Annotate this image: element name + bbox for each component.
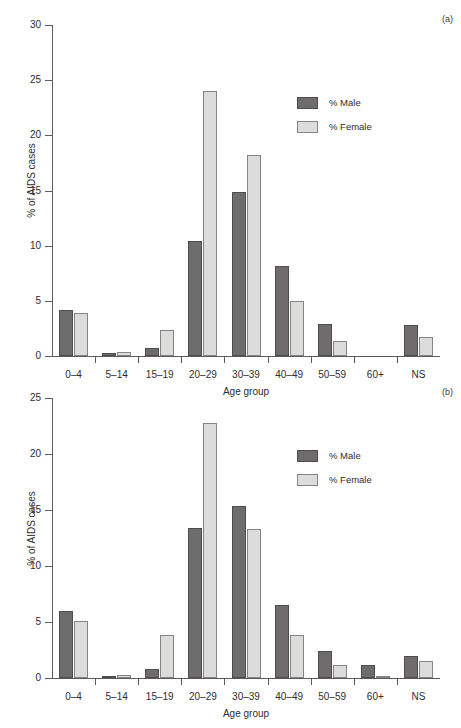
x-tick <box>95 679 96 685</box>
y-tick-20: 20 <box>45 135 52 136</box>
x-axis-label-7: 60+ <box>367 691 384 702</box>
bar-female-5 <box>290 301 304 356</box>
x-axis-label-5: 40–49 <box>275 369 303 380</box>
legend-item-male: % Male <box>297 449 372 462</box>
x-axis-a <box>52 356 440 357</box>
x-axis-label-5: 40–49 <box>275 691 303 702</box>
y-tick-15: 15 <box>45 191 52 192</box>
x-axis-label-6: 50–59 <box>318 369 346 380</box>
y-tick-label: 25 <box>30 391 41 404</box>
legend-label-female: % Female <box>329 121 372 133</box>
x-axis-b <box>52 678 440 679</box>
bar-male-0 <box>59 310 73 356</box>
x-axis-label-3: 20–29 <box>189 691 217 702</box>
bar-male-7 <box>361 665 375 678</box>
figure-a: (a) % of AIDS cases Age group 0510152025… <box>0 14 461 389</box>
x-tick <box>354 357 355 363</box>
bar-male-4 <box>232 192 246 356</box>
x-axis-label-0: 0–4 <box>65 691 82 702</box>
panel-label-a: (a) <box>442 14 453 24</box>
legend-label-female: % Female <box>329 474 372 486</box>
x-axis-label-2: 15–19 <box>146 691 174 702</box>
y-tick-label: 10 <box>30 559 41 572</box>
legend-label-male: % Male <box>329 97 361 109</box>
y-tick-25: 25 <box>45 80 52 81</box>
y-axis-b <box>52 398 53 679</box>
y-tick-5: 5 <box>45 301 52 302</box>
y-tick-30: 30 <box>45 25 52 26</box>
y-tick-label: 15 <box>30 184 41 197</box>
bar-female-6 <box>333 341 347 356</box>
x-axis-label-1: 5–14 <box>106 369 128 380</box>
x-axis-label-0: 0–4 <box>65 369 82 380</box>
legend-swatch-female-icon <box>297 121 318 133</box>
bar-female-6 <box>333 665 347 678</box>
bar-male-3 <box>188 241 202 356</box>
y-tick-label: 25 <box>30 73 41 86</box>
legend-swatch-male-icon <box>297 450 318 462</box>
y-tick-label: 30 <box>30 18 41 31</box>
bar-male-2 <box>145 669 159 678</box>
bar-female-4 <box>247 529 261 678</box>
x-tick <box>138 357 139 363</box>
x-axis-label-4: 30–39 <box>232 691 260 702</box>
legend-item-female: % Female <box>297 473 372 486</box>
x-axis-label-3: 20–29 <box>189 369 217 380</box>
bar-female-1 <box>117 675 131 678</box>
y-tick-10: 10 <box>45 246 52 247</box>
x-tick <box>397 357 398 363</box>
bar-female-8 <box>419 337 433 356</box>
x-axis-title-b: Age group <box>52 708 440 719</box>
y-tick-5: 5 <box>45 622 52 623</box>
bar-male-6 <box>318 324 332 356</box>
panel-label-b: (b) <box>442 387 453 397</box>
x-axis-label-7: 60+ <box>367 369 384 380</box>
x-tick <box>95 357 96 363</box>
cropped-caption-text <box>78 0 408 4</box>
y-tick-label: 15 <box>30 503 41 516</box>
x-axis-label-2: 15–19 <box>146 369 174 380</box>
y-tick-label: 0 <box>35 671 41 684</box>
x-tick <box>224 679 225 685</box>
legend-swatch-male-icon <box>297 97 318 109</box>
plot-area-b: % of AIDS cases Age group 05101520250–45… <box>52 398 440 679</box>
y-tick-label: 0 <box>35 349 41 362</box>
legend-swatch-female-icon <box>297 474 318 486</box>
y-tick-20: 20 <box>45 454 52 455</box>
bar-male-0 <box>59 611 73 678</box>
x-tick <box>397 679 398 685</box>
x-tick <box>181 357 182 363</box>
bar-male-2 <box>145 348 159 356</box>
y-tick-label: 5 <box>35 294 41 307</box>
x-axis-label-1: 5–14 <box>106 691 128 702</box>
bar-male-6 <box>318 651 332 678</box>
bar-female-2 <box>160 635 174 678</box>
y-tick-label: 20 <box>30 447 41 460</box>
y-tick-10: 10 <box>45 566 52 567</box>
x-tick <box>138 679 139 685</box>
bar-male-8 <box>404 656 418 678</box>
y-tick-label: 5 <box>35 615 41 628</box>
bar-male-1 <box>102 676 116 678</box>
bar-male-8 <box>404 325 418 356</box>
bar-female-0 <box>74 313 88 356</box>
y-tick-label: 10 <box>30 239 41 252</box>
x-tick <box>311 357 312 363</box>
bar-female-7 <box>376 676 390 678</box>
figure-b: (b) % of AIDS cases Age group 0510152025… <box>0 387 461 728</box>
x-axis-label-8: NS <box>411 369 425 380</box>
bar-female-5 <box>290 635 304 678</box>
bar-female-1 <box>117 352 131 356</box>
bar-female-3 <box>203 91 217 356</box>
x-tick <box>224 357 225 363</box>
x-tick <box>354 679 355 685</box>
legend-item-male: % Male <box>297 96 372 109</box>
x-tick <box>268 357 269 363</box>
plot-area-a: % of AIDS cases Age group 0510152025300–… <box>52 25 440 357</box>
bar-female-3 <box>203 423 217 678</box>
y-tick-15: 15 <box>45 510 52 511</box>
y-tick-0: 0 <box>45 356 52 357</box>
bar-female-2 <box>160 330 174 356</box>
bar-female-4 <box>247 155 261 356</box>
y-tick-0: 0 <box>45 678 52 679</box>
